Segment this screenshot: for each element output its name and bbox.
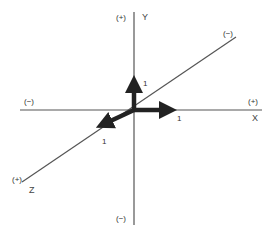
z-unit-arrow-icon: [104, 110, 134, 124]
z-positive-label: (+): [12, 176, 22, 184]
y-axis-name: Y: [142, 13, 148, 22]
z-unit-label: 1: [102, 138, 106, 146]
x-axis-name: X: [252, 114, 258, 123]
x-positive-label: (+): [248, 98, 258, 106]
y-negative-label: (−): [116, 215, 126, 223]
z-axis-name: Z: [29, 186, 35, 195]
z-negative-label: (−): [223, 30, 233, 38]
x-negative-label: (−): [24, 98, 34, 106]
y-positive-label: (+): [116, 14, 126, 22]
coordinate-diagram: (+) Y (−) 1 (−) (+) X 1 (−) (+) Z 1: [0, 0, 272, 233]
x-unit-label: 1: [177, 115, 181, 123]
y-unit-label: 1: [143, 80, 147, 88]
